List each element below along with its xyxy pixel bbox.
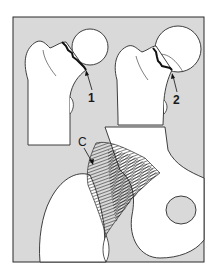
diagram-canvas [0, 0, 219, 274]
hip-fracture-diagram: 1 2 C [0, 0, 219, 274]
label-capsule-c: C [78, 136, 87, 148]
label-fracture-1: 1 [88, 92, 95, 104]
label-fracture-2: 2 [173, 94, 180, 106]
